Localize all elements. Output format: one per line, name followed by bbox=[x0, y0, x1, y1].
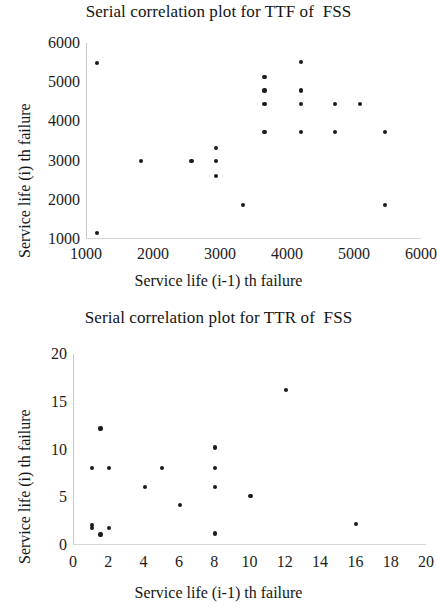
figure-page: Serial correlation plot for TTF of FSS S… bbox=[0, 0, 437, 612]
data-point bbox=[358, 102, 362, 106]
x-tick-label: 4000 bbox=[271, 246, 303, 262]
data-point bbox=[284, 388, 288, 392]
data-point bbox=[95, 231, 99, 235]
data-point bbox=[98, 532, 102, 536]
chart-ttf: Serial correlation plot for TTF of FSS S… bbox=[0, 0, 437, 306]
y-tick-label: 6000 bbox=[0, 35, 80, 51]
x-tick-label: 1000 bbox=[70, 246, 102, 262]
y-tick-label: 0 bbox=[0, 537, 67, 553]
x-tick-label: 0 bbox=[69, 554, 77, 570]
x-tick-label: 16 bbox=[347, 554, 363, 570]
data-point bbox=[139, 159, 143, 163]
y-tick-label: 15 bbox=[0, 394, 67, 410]
data-point bbox=[107, 526, 111, 530]
data-point bbox=[333, 130, 337, 134]
x-tick-label: 2000 bbox=[137, 246, 169, 262]
x-tick-label: 6 bbox=[175, 554, 183, 570]
y-tick-label: 3000 bbox=[0, 153, 80, 169]
x-tick-label: 20 bbox=[418, 554, 434, 570]
data-point bbox=[213, 445, 217, 449]
data-point bbox=[333, 102, 337, 106]
data-point bbox=[95, 61, 99, 65]
data-point bbox=[213, 466, 217, 470]
data-point bbox=[299, 88, 303, 92]
x-tick-label: 5000 bbox=[338, 246, 370, 262]
x-tick-label: 18 bbox=[383, 554, 399, 570]
data-point bbox=[354, 522, 358, 526]
data-point bbox=[248, 494, 252, 498]
y-tick-label: 2000 bbox=[0, 192, 80, 208]
x-tick-label: 3000 bbox=[204, 246, 236, 262]
chart-ttr: Serial correlation plot for TTR of FSS S… bbox=[0, 306, 437, 612]
data-point bbox=[262, 130, 266, 134]
x-tick-label: 14 bbox=[312, 554, 328, 570]
data-point bbox=[98, 426, 102, 430]
x-tick-label: 4 bbox=[140, 554, 148, 570]
data-point bbox=[383, 203, 387, 207]
data-point bbox=[213, 485, 217, 489]
x-tick-label: 2 bbox=[104, 554, 112, 570]
data-point bbox=[299, 102, 303, 106]
y-tick-label: 1000 bbox=[0, 231, 80, 247]
data-point bbox=[90, 466, 94, 470]
chart-ttf-points-layer bbox=[87, 43, 421, 238]
data-point bbox=[189, 159, 193, 163]
chart-ttf-plot-area bbox=[86, 43, 421, 239]
x-tick-label: 10 bbox=[242, 554, 258, 570]
chart-ttr-title: Serial correlation plot for TTR of FSS bbox=[0, 308, 437, 328]
chart-ttr-x-axis-title: Service life (i-1) th failure bbox=[0, 584, 437, 602]
chart-ttf-x-axis-title: Service life (i-1) th failure bbox=[0, 272, 437, 290]
data-point bbox=[143, 485, 147, 489]
x-tick-label: 8 bbox=[210, 554, 218, 570]
chart-ttr-plot-area bbox=[73, 354, 426, 545]
data-point bbox=[214, 146, 218, 150]
data-point bbox=[214, 159, 218, 163]
data-point bbox=[213, 531, 217, 535]
data-point bbox=[160, 466, 164, 470]
data-point bbox=[90, 526, 94, 530]
data-point bbox=[107, 466, 111, 470]
chart-ttf-title: Serial correlation plot for TTF of FSS bbox=[0, 2, 437, 22]
data-point bbox=[299, 130, 303, 134]
x-tick-label: 12 bbox=[277, 554, 293, 570]
data-point bbox=[299, 60, 303, 64]
data-point bbox=[262, 102, 266, 106]
y-tick-label: 4000 bbox=[0, 113, 80, 129]
y-tick-label: 10 bbox=[0, 442, 67, 458]
data-point bbox=[262, 88, 266, 92]
data-point bbox=[241, 203, 245, 207]
data-point bbox=[178, 503, 182, 507]
y-tick-label: 5 bbox=[0, 489, 67, 505]
data-point bbox=[262, 75, 266, 79]
data-point bbox=[383, 130, 387, 134]
y-tick-label: 5000 bbox=[0, 74, 80, 90]
chart-ttr-points-layer bbox=[74, 354, 426, 544]
x-tick-label: 6000 bbox=[405, 246, 437, 262]
y-tick-label: 20 bbox=[0, 346, 67, 362]
data-point bbox=[214, 174, 218, 178]
